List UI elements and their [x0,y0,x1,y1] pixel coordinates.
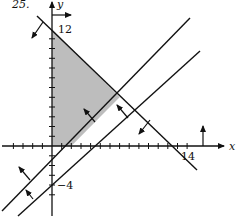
arrow-icon-y-x-minus-4-lower [26,190,33,199]
y-tick-label-neg4: −4 [57,179,73,192]
line-y-eq-x-minus-4 [18,51,200,216]
line-y-eq-x-minus-2 [2,18,190,211]
problem-number: 25. [11,0,30,11]
y-axis-label: y [56,0,64,11]
feasible-region [52,29,120,146]
arrow-icon-x-plus-y-12-lower [139,120,150,134]
arrow-icon-y-x-minus-2-lower [19,167,30,180]
arrow-icon-x-plus-y-12 [32,22,43,38]
linear-inequalities-graph: 25. y x 12 −4 14 [0,0,237,218]
x-tick-label-14: 14 [181,150,195,163]
x-axis-label: x [229,140,236,153]
arrow-icon-y-x-minus-4-upper [117,105,128,118]
y-tick-label-12: 12 [58,23,72,36]
